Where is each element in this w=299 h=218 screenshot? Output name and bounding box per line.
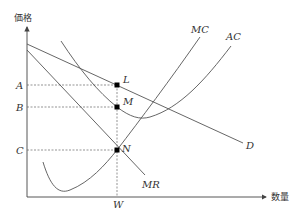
point-l-marker bbox=[115, 83, 120, 88]
monopoly-diagram: 価格 数量 MC AC D MR L M N A B C W bbox=[0, 0, 299, 218]
point-n-label: N bbox=[121, 143, 132, 154]
demand-curve bbox=[27, 44, 243, 143]
mc-label: MC bbox=[190, 24, 209, 35]
price-b-label: B bbox=[15, 102, 23, 113]
price-a-label: A bbox=[15, 80, 23, 91]
ac-curve bbox=[61, 41, 231, 118]
point-m-marker bbox=[115, 105, 120, 110]
mr-curve bbox=[27, 50, 145, 175]
y-axis-label: 価格 bbox=[14, 12, 32, 23]
point-m-label: M bbox=[122, 96, 134, 107]
mc-curve bbox=[43, 37, 200, 191]
quantity-w-label: W bbox=[113, 199, 124, 210]
d-label: D bbox=[245, 140, 254, 151]
ac-label: AC bbox=[225, 31, 241, 42]
price-c-label: C bbox=[16, 145, 24, 156]
point-n-marker bbox=[115, 148, 120, 153]
point-l-label: L bbox=[122, 74, 130, 85]
x-axis-label: 数量 bbox=[271, 191, 289, 202]
mr-label: MR bbox=[141, 179, 160, 190]
